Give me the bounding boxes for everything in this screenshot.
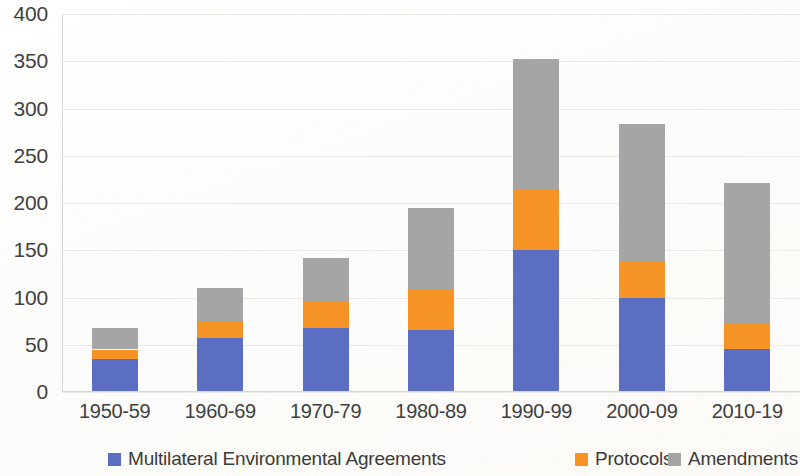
bar-segment[interactable] bbox=[724, 323, 770, 349]
bar-segment[interactable] bbox=[92, 350, 138, 359]
y-axis-tick-label: 400 bbox=[14, 2, 48, 26]
chart-legend: Multilateral Environmental AgreementsPro… bbox=[0, 448, 800, 476]
legend-item-label: Protocols bbox=[595, 448, 672, 470]
bar-segment[interactable] bbox=[619, 124, 665, 261]
bar-segment[interactable] bbox=[619, 298, 665, 393]
bar-segment[interactable] bbox=[724, 349, 770, 392]
plot-area bbox=[62, 14, 800, 392]
gridline bbox=[62, 392, 800, 393]
legend-item[interactable]: Protocols bbox=[575, 448, 672, 470]
y-axis-tick-label: 50 bbox=[25, 333, 48, 357]
bar-segment[interactable] bbox=[513, 250, 559, 392]
x-axis-tick-label: 1990-99 bbox=[501, 400, 572, 423]
bar-segment[interactable] bbox=[619, 261, 665, 298]
y-axis-tick-label: 150 bbox=[14, 238, 48, 262]
bar-segment[interactable] bbox=[92, 328, 138, 350]
y-axis-tick-label: 250 bbox=[14, 144, 48, 168]
legend-item[interactable]: Multilateral Environmental Agreements bbox=[108, 448, 446, 470]
legend-swatch-meas bbox=[108, 453, 121, 466]
bar-segment[interactable] bbox=[408, 289, 454, 330]
bar-group[interactable] bbox=[619, 124, 665, 392]
y-axis-tick-label: 0 bbox=[37, 380, 48, 404]
bar-group[interactable] bbox=[408, 208, 454, 392]
bar-group[interactable] bbox=[724, 183, 770, 392]
x-axis-tick-label: 1970-79 bbox=[290, 400, 361, 423]
legend-item-label: Amendments bbox=[688, 448, 798, 470]
y-axis-tick-label: 100 bbox=[14, 286, 48, 310]
legend-item[interactable]: Amendments bbox=[668, 448, 798, 470]
bar-segment[interactable] bbox=[513, 190, 559, 250]
bar-segment[interactable] bbox=[303, 258, 349, 302]
x-axis: 1950-591960-691970-791980-891990-992000-… bbox=[62, 400, 800, 434]
bar-segment[interactable] bbox=[92, 359, 138, 392]
x-axis-tick-label: 1980-89 bbox=[395, 400, 466, 423]
x-axis-tick-label: 1960-69 bbox=[184, 400, 255, 423]
y-axis-line bbox=[62, 14, 63, 392]
legend-swatch-protocols bbox=[575, 453, 588, 466]
legend-swatch-amendments bbox=[668, 453, 681, 466]
y-axis-tick-label: 350 bbox=[14, 49, 48, 73]
bar-segment[interactable] bbox=[197, 288, 243, 322]
x-axis-tick-label: 2010-19 bbox=[712, 400, 783, 423]
y-axis-tick-label: 300 bbox=[14, 97, 48, 121]
bars-layer bbox=[62, 14, 800, 392]
x-axis-tick-label: 2000-09 bbox=[606, 400, 677, 423]
bar-segment[interactable] bbox=[724, 183, 770, 323]
x-axis-tick-label: 1950-59 bbox=[79, 400, 150, 423]
bar-segment[interactable] bbox=[303, 328, 349, 392]
bar-segment[interactable] bbox=[197, 338, 243, 392]
bar-segment[interactable] bbox=[513, 59, 559, 189]
y-axis: 050100150200250300350400 bbox=[0, 0, 56, 406]
bar-group[interactable] bbox=[513, 59, 559, 392]
x-axis-line bbox=[62, 391, 800, 392]
bar-segment[interactable] bbox=[303, 302, 349, 328]
bar-group[interactable] bbox=[303, 258, 349, 392]
stacked-bar-chart: 050100150200250300350400 1950-591960-691… bbox=[0, 0, 800, 476]
bar-segment[interactable] bbox=[408, 208, 454, 289]
legend-item-label: Multilateral Environmental Agreements bbox=[128, 448, 446, 470]
bar-segment[interactable] bbox=[197, 322, 243, 338]
bar-segment[interactable] bbox=[408, 330, 454, 392]
y-axis-tick-label: 200 bbox=[14, 191, 48, 215]
bar-group[interactable] bbox=[197, 288, 243, 392]
bar-group[interactable] bbox=[92, 328, 138, 392]
